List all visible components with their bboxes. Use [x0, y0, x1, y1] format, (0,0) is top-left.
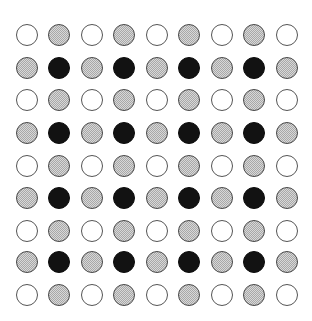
circle-gray-r4-c3[interactable]: [81, 122, 103, 144]
circle-gray-r1-c8[interactable]: [243, 24, 265, 46]
circle-black-r2-c2[interactable]: [48, 57, 70, 79]
circle-white-r7-c5[interactable]: [146, 220, 168, 242]
circle-gray-r8-c5[interactable]: [146, 251, 168, 273]
circle-gray-r2-c3[interactable]: [81, 57, 103, 79]
circle-gray-r2-c9[interactable]: [276, 57, 298, 79]
circle-black-r6-c6[interactable]: [178, 187, 200, 209]
circle-white-r5-c7[interactable]: [211, 155, 233, 177]
circle-gray-r4-c5[interactable]: [146, 122, 168, 144]
circle-black-r4-c6[interactable]: [178, 122, 200, 144]
circle-gray-r4-c9[interactable]: [276, 122, 298, 144]
circle-gray-r7-c2[interactable]: [48, 220, 70, 242]
circle-black-r2-c8[interactable]: [243, 57, 265, 79]
circle-white-r3-c3[interactable]: [81, 89, 103, 111]
circle-gray-r2-c1[interactable]: [16, 57, 38, 79]
circle-white-r9-c3[interactable]: [81, 284, 103, 306]
circle-gray-r3-c6[interactable]: [178, 89, 200, 111]
circle-gray-r9-c4[interactable]: [113, 284, 135, 306]
circle-gray-r3-c2[interactable]: [48, 89, 70, 111]
circle-gray-r7-c4[interactable]: [113, 220, 135, 242]
circle-black-r2-c4[interactable]: [113, 57, 135, 79]
circle-white-r3-c5[interactable]: [146, 89, 168, 111]
circle-gray-r4-c7[interactable]: [211, 122, 233, 144]
circle-white-r9-c1[interactable]: [16, 284, 38, 306]
circle-white-r1-c9[interactable]: [276, 24, 298, 46]
circle-gray-r8-c9[interactable]: [276, 251, 298, 273]
circle-black-r8-c4[interactable]: [113, 251, 135, 273]
circle-white-r9-c7[interactable]: [211, 284, 233, 306]
circle-white-r3-c1[interactable]: [16, 89, 38, 111]
circle-gray-r7-c6[interactable]: [178, 220, 200, 242]
circle-gray-r8-c3[interactable]: [81, 251, 103, 273]
circle-gray-r9-c2[interactable]: [48, 284, 70, 306]
circle-black-r4-c8[interactable]: [243, 122, 265, 144]
circle-black-r6-c4[interactable]: [113, 187, 135, 209]
circle-gray-r8-c1[interactable]: [16, 251, 38, 273]
circle-white-r3-c9[interactable]: [276, 89, 298, 111]
circle-gray-r5-c4[interactable]: [113, 155, 135, 177]
circle-white-r7-c7[interactable]: [211, 220, 233, 242]
circle-gray-r5-c8[interactable]: [243, 155, 265, 177]
circle-white-r3-c7[interactable]: [211, 89, 233, 111]
circle-gray-r9-c6[interactable]: [178, 284, 200, 306]
circle-white-r9-c5[interactable]: [146, 284, 168, 306]
circle-gray-r5-c6[interactable]: [178, 155, 200, 177]
circle-gray-r9-c8[interactable]: [243, 284, 265, 306]
circle-black-r4-c2[interactable]: [48, 122, 70, 144]
circle-gray-r3-c8[interactable]: [243, 89, 265, 111]
circle-white-r5-c1[interactable]: [16, 155, 38, 177]
circle-white-r5-c3[interactable]: [81, 155, 103, 177]
circle-gray-r2-c7[interactable]: [211, 57, 233, 79]
circle-grid-canvas: [0, 0, 312, 321]
circle-white-r9-c9[interactable]: [276, 284, 298, 306]
circle-black-r2-c6[interactable]: [178, 57, 200, 79]
circle-gray-r1-c6[interactable]: [178, 24, 200, 46]
circle-gray-r8-c7[interactable]: [211, 251, 233, 273]
circle-gray-r6-c9[interactable]: [276, 187, 298, 209]
circle-white-r1-c1[interactable]: [16, 24, 38, 46]
circle-black-r4-c4[interactable]: [113, 122, 135, 144]
circle-gray-r7-c8[interactable]: [243, 220, 265, 242]
circle-white-r1-c5[interactable]: [146, 24, 168, 46]
circle-gray-r4-c1[interactable]: [16, 122, 38, 144]
circle-gray-r1-c2[interactable]: [48, 24, 70, 46]
circle-gray-r5-c2[interactable]: [48, 155, 70, 177]
circle-white-r5-c9[interactable]: [276, 155, 298, 177]
circle-black-r6-c2[interactable]: [48, 187, 70, 209]
circle-gray-r6-c5[interactable]: [146, 187, 168, 209]
circle-gray-r1-c4[interactable]: [113, 24, 135, 46]
circle-white-r7-c1[interactable]: [16, 220, 38, 242]
circle-white-r5-c5[interactable]: [146, 155, 168, 177]
circle-gray-r6-c1[interactable]: [16, 187, 38, 209]
circle-white-r1-c3[interactable]: [81, 24, 103, 46]
circle-white-r1-c7[interactable]: [211, 24, 233, 46]
circle-gray-r6-c7[interactable]: [211, 187, 233, 209]
circle-gray-r3-c4[interactable]: [113, 89, 135, 111]
circle-gray-r2-c5[interactable]: [146, 57, 168, 79]
circle-gray-r6-c3[interactable]: [81, 187, 103, 209]
circle-black-r8-c2[interactable]: [48, 251, 70, 273]
circle-black-r6-c8[interactable]: [243, 187, 265, 209]
circle-black-r8-c8[interactable]: [243, 251, 265, 273]
circle-white-r7-c9[interactable]: [276, 220, 298, 242]
circle-white-r7-c3[interactable]: [81, 220, 103, 242]
circle-black-r8-c6[interactable]: [178, 251, 200, 273]
